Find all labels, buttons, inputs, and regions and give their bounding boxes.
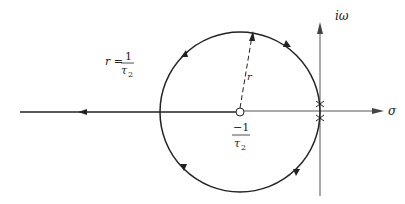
radius-eq-numerator: 1 xyxy=(125,50,132,63)
imag-axis-label: iω xyxy=(335,9,349,23)
real-axis xyxy=(240,108,384,114)
radius-label: r xyxy=(247,71,253,82)
pole-label-denominator: τ xyxy=(234,137,241,150)
zero-marker xyxy=(236,108,244,116)
arrow-icon xyxy=(293,169,300,176)
root-locus-diagram: iω σ r −1 τ 2 r = 1 τ 2 xyxy=(0,0,405,204)
arrow-icon xyxy=(180,164,187,171)
radius-eq-subscript: 2 xyxy=(128,70,133,79)
arrow-icon xyxy=(181,50,188,57)
real-axis-locus xyxy=(20,109,240,115)
arrow-icon xyxy=(283,40,291,47)
pole-label-subscript: 2 xyxy=(241,143,246,152)
radius-eq-denominator: τ xyxy=(121,64,128,77)
pole-label-numerator: −1 xyxy=(233,121,249,134)
real-axis-label: σ xyxy=(388,104,397,118)
arrow-left-icon xyxy=(78,109,87,115)
radius-line xyxy=(240,31,255,108)
